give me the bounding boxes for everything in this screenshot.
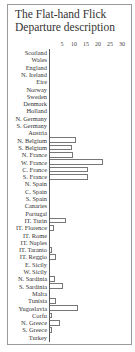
bar-row: N. Greece	[0, 319, 135, 326]
bar-row: N. Belgium	[0, 137, 135, 144]
bar	[50, 174, 88, 180]
bar	[50, 137, 76, 143]
bar-row: Norway	[0, 86, 135, 93]
category-label: Holland	[26, 107, 47, 114]
category-label: Wales	[32, 56, 47, 63]
bar	[50, 247, 52, 253]
category-label: N. Ireland	[21, 71, 47, 78]
bar	[50, 152, 73, 158]
bar-row: N. Sardinia	[0, 275, 135, 282]
category-label: N. France	[22, 151, 47, 158]
bar-row: E. Sicily	[0, 261, 135, 268]
category-label: IT. Reggio	[20, 253, 47, 260]
bar	[50, 167, 88, 173]
bar-row: W. France	[0, 159, 135, 166]
bar-row: Malta	[0, 290, 135, 297]
category-label: IT. Florence	[16, 224, 47, 231]
bar-row: S. Belgium	[0, 144, 135, 151]
category-label: S. Greece	[22, 326, 47, 333]
bar-row: Sweden	[0, 93, 135, 100]
chart-title-line-2: Departure description	[15, 21, 115, 34]
x-tick-label: 10	[71, 40, 77, 48]
category-label: Tunisia	[28, 297, 47, 304]
bar-row: Scotland	[0, 49, 135, 56]
category-label: IT. Taranto	[19, 246, 47, 253]
bar-row: IT. Turin	[0, 217, 135, 224]
bar-row: Wales	[0, 56, 135, 63]
bar-row: Denmark	[0, 100, 135, 107]
bar-row: C. Spain	[0, 188, 135, 195]
category-label: N. Spain	[25, 180, 47, 187]
category-label: Sweden	[27, 93, 47, 100]
bar	[50, 320, 60, 326]
bar-row: S. Sardinia	[0, 283, 135, 290]
bar-row: W. Sicily	[0, 268, 135, 275]
bar-row: Turkey	[0, 334, 135, 341]
bar-row: N. Spain	[0, 180, 135, 187]
bar	[50, 225, 54, 231]
bar	[50, 276, 55, 282]
x-tick-label: 20	[95, 40, 101, 48]
bar	[50, 298, 56, 304]
bar	[50, 283, 63, 289]
bar-row: Corfu	[0, 312, 135, 319]
category-label: N. Germany	[15, 115, 47, 122]
bar	[50, 313, 52, 319]
bar-row: Portugal	[0, 210, 135, 217]
category-label: S. Spain	[26, 195, 47, 202]
category-label: Norway	[26, 86, 47, 93]
bar	[50, 327, 52, 333]
bar-row: S. France	[0, 173, 135, 180]
category-label: C. Spain	[25, 188, 47, 195]
bar	[50, 254, 56, 260]
category-label: S. Germany	[16, 122, 47, 129]
category-label: IT. Naples	[21, 239, 48, 246]
category-label: N. Sardinia	[18, 275, 47, 282]
bar-row: IT. Rome	[0, 232, 135, 239]
bar	[50, 159, 103, 165]
category-label: Yugoslavia	[19, 305, 47, 312]
category-label: Denmark	[23, 100, 47, 107]
chart-title-line-1: The Flat-hand Flick	[15, 8, 115, 21]
category-label: England	[26, 64, 47, 71]
category-label: Scotland	[25, 49, 47, 56]
bar-row: N. France	[0, 151, 135, 158]
category-label: N. Belgium	[17, 137, 47, 144]
category-label: Malta	[32, 290, 47, 297]
bar-row: Canaries	[0, 202, 135, 209]
category-label: Portugal	[25, 210, 47, 217]
bar	[50, 305, 78, 311]
category-label: N. Greece	[21, 319, 47, 326]
category-label: S. France	[23, 173, 47, 180]
category-label: W. France	[21, 159, 47, 166]
x-tick-label: 25	[107, 40, 113, 48]
category-label: IT. Turin	[24, 217, 47, 224]
x-tick-label: 5	[61, 40, 64, 48]
bar-row: S. Germany	[0, 122, 135, 129]
bar-row: Eire	[0, 78, 135, 85]
bar-row: England	[0, 64, 135, 71]
category-label: E. Sicily	[25, 261, 47, 268]
x-tick-label: 15	[83, 40, 89, 48]
bar-row: S. Spain	[0, 195, 135, 202]
bar-row: N. Germany	[0, 115, 135, 122]
bar-row: IT. Reggio	[0, 253, 135, 260]
category-label: Austria	[28, 129, 47, 136]
bar-row: Yugoslavia	[0, 305, 135, 312]
bar-row: IT. Naples	[0, 239, 135, 246]
bar-row: Austria	[0, 129, 135, 136]
bar	[50, 218, 66, 224]
bar-row: S. Greece	[0, 326, 135, 333]
bar-row: IT. Florence	[0, 224, 135, 231]
category-label: S. Sardinia	[19, 283, 47, 290]
category-label: C. France	[22, 166, 47, 173]
chart-title: The Flat-hand Flick Departure descriptio…	[15, 8, 115, 34]
category-label: S. Belgium	[18, 144, 47, 151]
bar-row: N. Ireland	[0, 71, 135, 78]
category-label: Canaries	[25, 202, 47, 209]
bar-row: IT. Taranto	[0, 246, 135, 253]
category-label: Corfu	[32, 312, 47, 319]
category-label: IT. Rome	[23, 232, 47, 239]
bar	[50, 145, 72, 151]
bar-row: Holland	[0, 107, 135, 114]
